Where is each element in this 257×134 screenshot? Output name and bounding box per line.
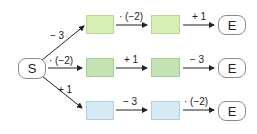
middle-op-1: + 1: [124, 54, 138, 65]
top-box-2: [151, 15, 180, 34]
middle-box-1: [86, 58, 114, 77]
top-op-1: · (−2): [119, 11, 143, 22]
top-op-2: + 1: [192, 11, 206, 22]
top-end-node: E: [218, 15, 246, 35]
bottom-box-2: [151, 101, 180, 120]
end-label: E: [228, 61, 237, 76]
branch-3-entry-label: + 1: [58, 84, 72, 95]
branch-2-entry-label: · (−2): [49, 55, 73, 66]
top-box-1: [86, 15, 114, 34]
bottom-box-1: [86, 101, 114, 120]
bottom-end-node: E: [218, 101, 246, 121]
end-label: E: [228, 18, 237, 33]
start-node: S: [18, 58, 46, 79]
middle-box-2: [151, 58, 180, 77]
end-label: E: [228, 104, 237, 119]
middle-op-2: − 3: [190, 54, 204, 65]
branch-1-entry-label: − 3: [50, 30, 64, 41]
bottom-op-1: − 3: [123, 96, 137, 107]
start-label: S: [28, 61, 37, 76]
middle-end-node: E: [218, 58, 246, 78]
bottom-op-2: · (−2): [184, 96, 208, 107]
